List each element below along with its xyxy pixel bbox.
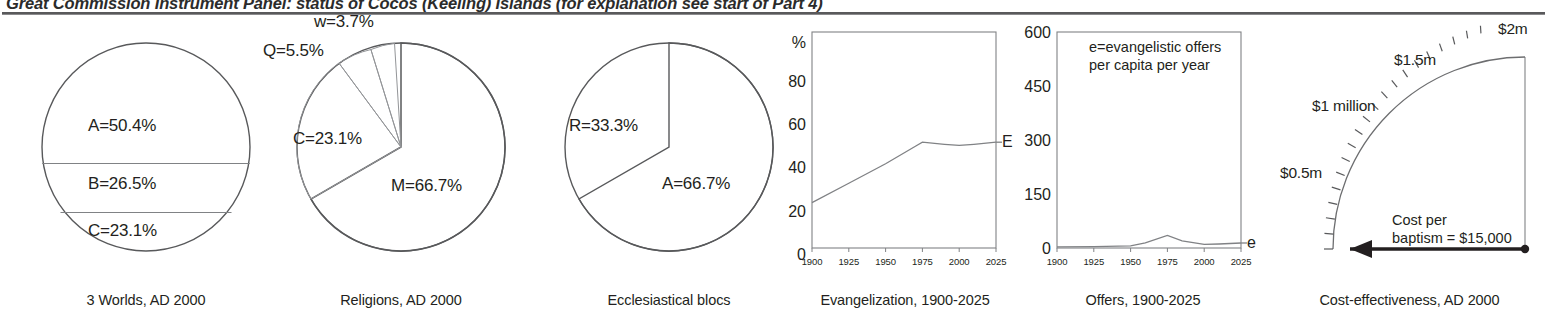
blocs-caption: Ecclesiastical blocs [523, 292, 815, 308]
evangelization-line-chart [780, 16, 1030, 278]
evangelization-ytick-40: 40 [780, 159, 806, 177]
evangelization-xtick-1950: 1950 [868, 256, 904, 267]
blocs-pie [523, 16, 815, 286]
blocs-label-r: R=33.3% [569, 116, 638, 136]
evangelization-xtick-1900: 1900 [794, 256, 830, 267]
figure-ecclesiastical-blocs: R=33.3% A=66.7% Ecclesiastical blocs [523, 16, 815, 316]
offers-ytick-600: 600 [1015, 24, 1051, 42]
offers-xtick-2000: 2000 [1186, 256, 1222, 267]
religions-label-q: Q=5.5% [263, 41, 324, 61]
figure-evangelization: % 80 60 40 20 0 1900 1925 1950 1975 2000… [780, 16, 1030, 316]
header-divider [2, 12, 1545, 15]
offers-xtick-2025: 2025 [1223, 256, 1259, 267]
offers-caption: Offers, 1900-2025 [1015, 292, 1271, 308]
three-worlds-label-c: C=23.1% [88, 221, 157, 241]
religions-caption: Religions, AD 2000 [255, 292, 547, 308]
offers-xtick-1975: 1975 [1149, 256, 1185, 267]
blocs-label-a: A=66.7% [662, 174, 730, 194]
offers-xtick-1950: 1950 [1113, 256, 1149, 267]
offers-note-line2: per capita per year [1089, 56, 1210, 74]
three-worlds-band-circle [0, 16, 292, 286]
evangelization-caption: Evangelization, 1900-2025 [780, 292, 1030, 308]
three-worlds-caption: 3 Worlds, AD 2000 [0, 292, 292, 308]
evangelization-series-label-e: E [1002, 133, 1013, 151]
three-worlds-label-a: A=50.4% [88, 116, 156, 136]
figure-offers: 600 450 300 150 0 1900 1925 1950 1975 20… [1015, 16, 1271, 316]
religions-label-m: M=66.7% [391, 176, 462, 196]
cost-effectiveness-caption: Cost-effectiveness, AD 2000 [1272, 292, 1547, 308]
evangelization-xtick-2025: 2025 [978, 256, 1014, 267]
offers-xtick-1900: 1900 [1039, 256, 1075, 267]
dial-label-2m: $2m [1498, 20, 1528, 38]
evangelization-ytick-60: 60 [780, 116, 806, 134]
offers-xtick-1925: 1925 [1076, 256, 1112, 267]
evangelization-ytick-80: 80 [780, 73, 806, 91]
figure-religions: w=3.7% Q=5.5% C=23.1% M=66.7% Religions,… [255, 16, 547, 316]
figure-cost-effectiveness: $0.5m $1 million $1.5m $2m Cost per bapt… [1272, 16, 1547, 316]
dial-label-1m: $1 million [1312, 97, 1375, 115]
religions-label-c: C=23.1% [293, 129, 362, 149]
dial-label-0-5m: $0.5m [1280, 164, 1322, 182]
offers-series-label-e: e [1247, 234, 1256, 252]
offers-ytick-150: 150 [1015, 186, 1051, 204]
evangelization-xtick-1975: 1975 [904, 256, 940, 267]
figure-three-worlds: A=50.4% B=26.5% C=23.1% 3 Worlds, AD 200… [0, 16, 292, 316]
evangelization-ytick-20: 20 [780, 203, 806, 221]
three-worlds-label-b: B=26.5% [88, 174, 156, 194]
dial-readout-line2: baptism = $15,000 [1392, 229, 1512, 247]
instrument-panel: Great Commission Instrument Panel: statu… [0, 0, 1547, 318]
offers-ytick-300: 300 [1015, 132, 1051, 150]
evangelization-xtick-1925: 1925 [831, 256, 867, 267]
offers-ytick-450: 450 [1015, 78, 1051, 96]
dial-label-1-5m: $1.5m [1394, 51, 1436, 69]
evangelization-y-unit: % [780, 34, 806, 52]
religions-label-w: w=3.7% [314, 12, 374, 32]
dial-readout-line1: Cost per [1392, 211, 1447, 229]
evangelization-xtick-2000: 2000 [941, 256, 977, 267]
offers-note-line1: e=evangelistic offers [1089, 38, 1221, 56]
